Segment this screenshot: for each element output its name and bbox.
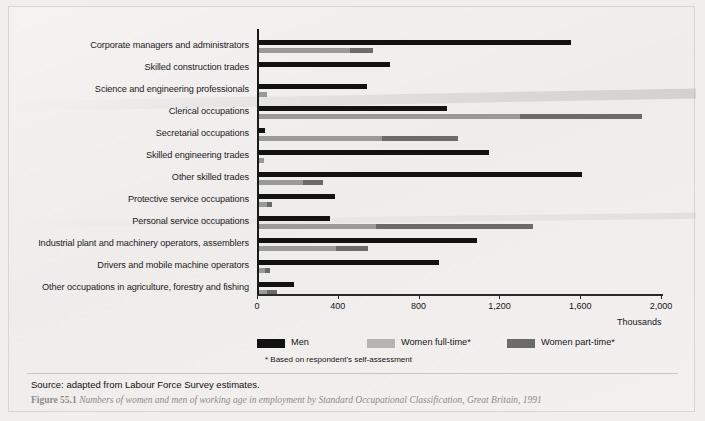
- category-label: Drivers and mobile machine operators: [97, 260, 249, 270]
- bar-women-full-time: [259, 246, 336, 251]
- chart-legend: Men Women full-time* Women part-time* * …: [257, 337, 697, 371]
- category-label: Corporate managers and administrators: [90, 40, 249, 50]
- category-label: Personal service occupations: [132, 216, 249, 226]
- x-axis-tick-label: 2,000: [650, 301, 673, 311]
- legend-swatch-men: [257, 339, 285, 348]
- category-label: Skilled engineering trades: [146, 150, 249, 160]
- x-axis-tick-label: 0: [254, 301, 259, 311]
- x-axis-tick: [419, 294, 420, 299]
- bar-men: [259, 282, 294, 287]
- bar-women-full-time: [259, 136, 382, 141]
- x-axis-unit-label: Thousands: [617, 317, 662, 327]
- bar-men: [259, 40, 571, 45]
- x-axis-tick-label: 1,600: [569, 301, 592, 311]
- bar-women-full-time: [259, 180, 303, 185]
- bar-women-part-time: [376, 224, 533, 229]
- bars-container: [259, 29, 663, 294]
- bar-men: [259, 172, 582, 177]
- legend-label: Men: [291, 337, 309, 347]
- x-axis-tick: [257, 294, 258, 299]
- x-axis-tick: [338, 294, 339, 299]
- bar-men: [259, 106, 447, 111]
- legend-swatch-women-part-time: [507, 339, 535, 348]
- bar-women-full-time: [259, 202, 267, 207]
- bar-women-part-time: [520, 114, 642, 119]
- x-axis-tick-label: 1,200: [488, 301, 511, 311]
- bar-men: [259, 194, 335, 199]
- bar-women-full-time: [259, 158, 264, 163]
- bar-men: [259, 62, 390, 67]
- bar-women-part-time: [350, 48, 373, 53]
- figure-caption: Figure 55.1 Numbers of women and men of …: [31, 395, 542, 405]
- category-label: Other occupations in agriculture, forest…: [42, 282, 249, 292]
- x-axis-tick: [499, 294, 500, 299]
- bar-men: [259, 216, 330, 221]
- legend-footnote: * Based on respondent's self-assessment: [265, 355, 412, 364]
- x-axis-line: [257, 294, 663, 296]
- x-axis-tick: [661, 294, 662, 299]
- bar-women-part-time: [267, 202, 272, 207]
- x-axis-tick-label: 800: [411, 301, 426, 311]
- category-label: Protective service occupations: [128, 194, 249, 204]
- bar-women-part-time: [303, 180, 322, 185]
- source-note: Source: adapted from Labour Force Survey…: [31, 379, 260, 390]
- figure-caption-text: Numbers of women and men of working age …: [79, 395, 542, 405]
- category-label: Secretarial occupations: [156, 128, 249, 138]
- x-axis-tick-label: 400: [330, 301, 345, 311]
- plot-area: Corporate managers and administrators Sk…: [9, 7, 696, 337]
- bar-men: [259, 84, 367, 89]
- figure-number: Figure 55.1: [31, 395, 77, 405]
- bar-women-full-time: [259, 48, 350, 53]
- bar-women-part-time: [382, 136, 458, 141]
- bar-men: [259, 260, 439, 265]
- figure-panel: Corporate managers and administrators Sk…: [8, 6, 695, 412]
- bar-women-full-time: [259, 114, 520, 119]
- legend-label: Women part-time*: [541, 337, 615, 347]
- bar-men: [259, 150, 489, 155]
- bar-women-full-time: [259, 224, 376, 229]
- category-label: Skilled construction trades: [144, 62, 249, 72]
- legend-label: Women full-time*: [401, 337, 471, 347]
- category-label: Industrial plant and machinery operators…: [38, 238, 249, 248]
- category-label: Clerical occupations: [169, 106, 249, 116]
- footer-divider: [27, 373, 678, 374]
- category-label: Science and engineering professionals: [95, 84, 249, 94]
- bar-women-part-time: [336, 246, 368, 251]
- category-label: Other skilled trades: [172, 172, 249, 182]
- bar-women-full-time: [259, 92, 267, 97]
- bar-women-part-time: [265, 268, 270, 273]
- bar-men: [259, 238, 477, 243]
- x-axis-tick: [580, 294, 581, 299]
- category-axis-labels: Corporate managers and administrators Sk…: [9, 7, 249, 297]
- legend-swatch-women-full-time: [367, 339, 395, 348]
- bar-men: [259, 128, 265, 133]
